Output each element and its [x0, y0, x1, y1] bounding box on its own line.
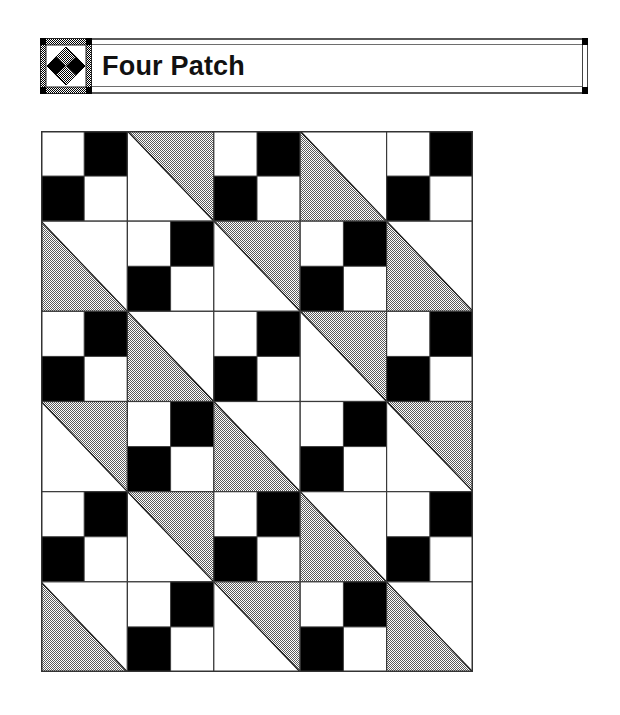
four-patch-block [387, 311, 473, 401]
four-patch-block [387, 131, 473, 221]
four-patch-block [387, 492, 473, 582]
four-patch-block [127, 582, 213, 672]
four-patch-block [41, 492, 127, 582]
half-square-triangle-block [300, 131, 386, 221]
band-rule-top-inner [92, 44, 582, 45]
four-patch-block [300, 221, 386, 311]
four-patch-block [127, 221, 213, 311]
half-square-triangle-block [300, 492, 386, 582]
four-patch-block [214, 492, 300, 582]
half-square-triangle-block [127, 311, 213, 401]
band-rule-bottom-outer [92, 92, 582, 94]
half-square-triangle-block [41, 582, 127, 672]
endcap-corner-top [582, 38, 588, 45]
four-patch-block [214, 131, 300, 221]
half-square-triangle-block [214, 582, 300, 672]
endcap-corner-bottom [582, 87, 588, 94]
four-patch-block [41, 311, 127, 401]
half-square-triangle-block [387, 582, 473, 672]
four-patch-block [300, 402, 386, 492]
four-patch-block [300, 582, 386, 672]
half-square-triangle-block [214, 402, 300, 492]
page-title: Four Patch [102, 51, 245, 81]
title-banner: Four Patch [40, 38, 588, 94]
four-patch-block [41, 131, 127, 221]
quilt-diagram [41, 131, 473, 672]
four-patch-block [127, 402, 213, 492]
four-patch-block [214, 311, 300, 401]
half-square-triangle-block [300, 311, 386, 401]
quilt-grid [41, 131, 473, 672]
half-square-triangle-block [127, 492, 213, 582]
half-square-triangle-block [41, 221, 127, 311]
band-endcap [582, 38, 588, 94]
band-rule-bottom-inner [92, 86, 582, 87]
half-square-triangle-block [387, 221, 473, 311]
half-square-triangle-block [41, 402, 127, 492]
half-square-triangle-block [387, 402, 473, 492]
four-patch-diamond-block-icon [40, 38, 92, 94]
half-square-triangle-block [127, 131, 213, 221]
band-rule-top-outer [92, 38, 582, 40]
title-band: Four Patch [92, 38, 588, 94]
half-square-triangle-block [214, 221, 300, 311]
